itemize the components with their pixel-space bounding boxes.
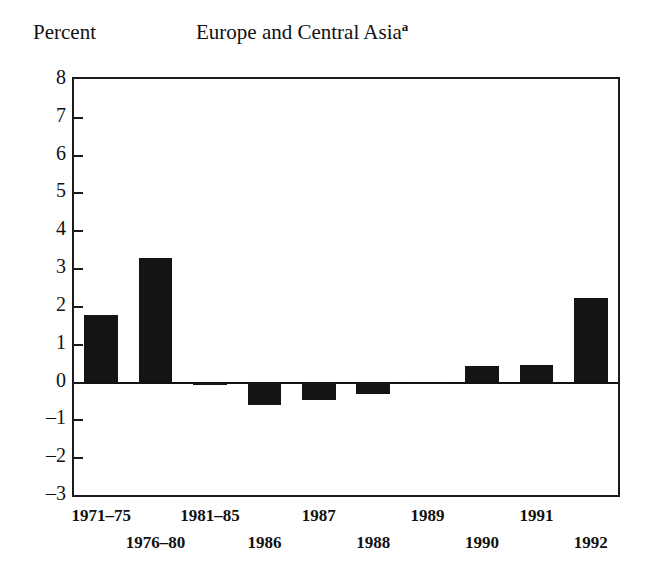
y-axis-tick-mark xyxy=(74,155,83,157)
y-axis-tick-mark xyxy=(74,382,83,384)
x-axis-tick-label: 1976–80 xyxy=(126,534,186,551)
y-axis-tick-label: 4 xyxy=(32,218,66,238)
y-axis-tick-mark xyxy=(74,419,83,421)
x-axis-tick-label: 1988 xyxy=(356,534,390,551)
bar xyxy=(193,382,227,385)
bar xyxy=(302,382,336,401)
bar xyxy=(84,315,118,381)
x-axis-tick-label: 1990 xyxy=(465,534,499,551)
y-axis-tick-mark xyxy=(74,457,83,459)
y-axis-tick-label: 1 xyxy=(32,332,66,352)
y-axis-tick-label: 3 xyxy=(32,256,66,276)
y-axis-tick-label: 6 xyxy=(32,143,66,163)
chart-title: Europe and Central Asiaa xyxy=(196,22,408,43)
y-axis-tick-label: 7 xyxy=(32,105,66,125)
x-axis-tick-label: 1987 xyxy=(302,507,336,524)
y-axis-tick-mark xyxy=(74,306,83,308)
x-axis-tick-label: 1971–75 xyxy=(71,507,131,524)
y-axis-tick-label: 5 xyxy=(32,180,66,200)
bar xyxy=(356,382,390,394)
x-axis-tick-label: 1989 xyxy=(411,507,445,524)
plot-inner-surface xyxy=(74,79,618,495)
x-axis-tick-labels: 1971–751976–801981–851986198719881989199… xyxy=(0,497,648,567)
y-axis-tick-label: –2 xyxy=(32,445,66,465)
chart-title-superscript: a xyxy=(402,19,409,34)
zero-baseline xyxy=(74,382,618,384)
y-axis-tick-mark xyxy=(74,192,83,194)
chart-figure: Percent Europe and Central Asiaa 8765432… xyxy=(0,0,648,576)
bar xyxy=(139,258,173,382)
bar xyxy=(411,382,445,384)
bar xyxy=(574,298,608,381)
y-axis-tick-label: 2 xyxy=(32,294,66,314)
y-axis-unit-label: Percent xyxy=(33,22,96,43)
x-axis-tick-label: 1992 xyxy=(574,534,608,551)
y-axis-tick-mark xyxy=(74,117,83,119)
bar xyxy=(520,365,554,382)
y-axis-tick-labels: 876543210–1–2–3 xyxy=(22,77,66,497)
x-axis-tick-label: 1986 xyxy=(247,534,281,551)
bar xyxy=(465,366,499,382)
y-axis-tick-mark xyxy=(74,230,83,232)
x-axis-tick-label: 1991 xyxy=(519,507,553,524)
chart-title-text: Europe and Central Asia xyxy=(196,20,402,44)
y-axis-tick-mark xyxy=(74,268,83,270)
y-axis-tick-mark xyxy=(74,344,83,346)
bar xyxy=(248,382,282,405)
plot-area xyxy=(72,77,620,497)
y-axis-tick-label: –1 xyxy=(32,407,66,427)
y-axis-tick-label: 0 xyxy=(32,370,66,390)
x-axis-tick-label: 1981–85 xyxy=(180,507,240,524)
y-axis-tick-label: 8 xyxy=(32,67,66,87)
